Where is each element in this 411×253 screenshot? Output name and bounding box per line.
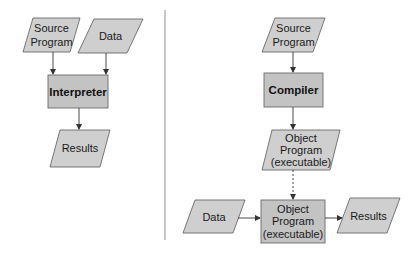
object-program-node: Object Program (executable)	[262, 130, 340, 170]
left-source-program-line1: Source	[34, 22, 69, 34]
left-data-node: Data	[78, 19, 143, 53]
interpreter-node: Interpreter	[48, 75, 108, 108]
right-source-program-line1: Source	[276, 22, 311, 34]
left-results-label: Results	[62, 142, 99, 154]
object-program-exec-line1: Object	[277, 203, 309, 215]
right-data-node: Data	[183, 200, 245, 233]
compiler-label: Compiler	[269, 84, 319, 96]
interpreter-vs-compiler-diagram: Source Program Data Interpreter Results	[0, 0, 411, 253]
object-program-line2: Program	[280, 144, 322, 156]
right-source-program-line2: Program	[272, 36, 314, 48]
object-program-line1: Object	[285, 132, 317, 144]
left-source-program-line2: Program	[30, 36, 72, 48]
left-panel-interpreter: Source Program Data Interpreter Results	[23, 18, 143, 167]
interpreter-label: Interpreter	[49, 86, 107, 98]
left-results-node: Results	[50, 130, 110, 167]
compiler-node: Compiler	[264, 73, 323, 107]
left-data-label: Data	[99, 30, 123, 42]
right-source-program-node: Source Program	[262, 18, 325, 52]
right-results-node: Results	[337, 198, 400, 233]
object-program-exec-node: Object Program (executable)	[261, 200, 325, 243]
object-program-exec-line2: Program	[272, 215, 314, 227]
right-data-label: Data	[202, 211, 226, 223]
right-results-label: Results	[350, 210, 387, 222]
object-program-exec-line3: (executable)	[263, 228, 324, 240]
right-panel-compiler: Source Program Compiler Object Program (…	[183, 18, 400, 243]
left-source-program-node: Source Program	[23, 18, 80, 52]
object-program-line3: (executable)	[271, 156, 332, 168]
